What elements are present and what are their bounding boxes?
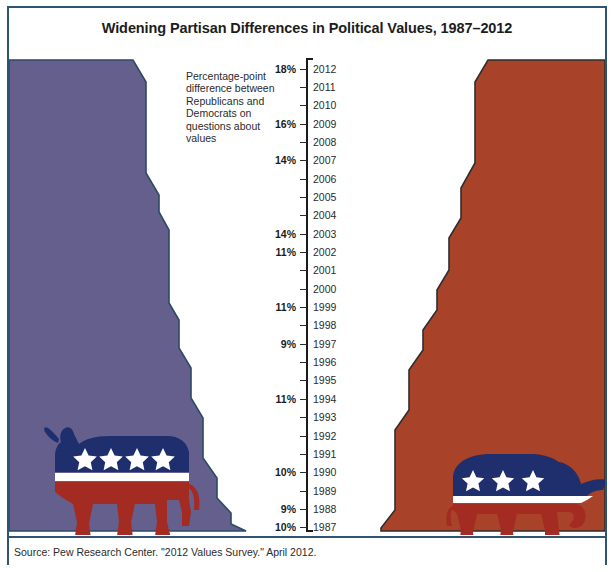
axis-percent-label: 16% [232, 119, 296, 129]
axis-tick [300, 69, 307, 70]
axis-tick [300, 472, 307, 473]
axis-year-label: 2003 [313, 229, 336, 239]
axis-tick [300, 270, 307, 271]
axis-year-label: 1997 [313, 339, 336, 349]
axis-year-label: 2005 [313, 192, 336, 202]
axis-percent-label: 18% [232, 64, 296, 74]
axis-year-label: 1988 [313, 504, 336, 514]
axis-tick [300, 344, 307, 345]
axis-year-label: 1998 [313, 320, 336, 330]
axis-year-label: 2006 [313, 174, 336, 184]
axis-tick [300, 215, 307, 216]
axis-year-label: 1996 [313, 357, 336, 367]
axis-tick [300, 325, 307, 326]
axis-year-label: 2004 [313, 210, 336, 220]
axis-year-label: 2007 [313, 155, 336, 165]
axis-tick [300, 87, 307, 88]
axis-tick [300, 417, 307, 418]
axis-tick [300, 307, 307, 308]
axis-tick [300, 380, 307, 381]
axis-tick [300, 491, 307, 492]
axis-year-label: 1990 [313, 467, 336, 477]
axis-year-label: 2011 [313, 82, 336, 92]
axis-year-label: 2009 [313, 119, 336, 129]
axis-year-label: 1992 [313, 431, 336, 441]
axis-year-label: 2001 [313, 265, 336, 275]
axis-percent-label: 9% [232, 339, 296, 349]
axis-tick [300, 234, 307, 235]
axis-percent-label: 10% [232, 467, 296, 477]
axis-year-label: 1993 [313, 412, 336, 422]
axis-year-label: 2010 [313, 100, 336, 110]
source-note: Source: Pew Research Center. "2012 Value… [14, 546, 316, 558]
axis-percent-label: 9% [232, 504, 296, 514]
axis-year-label: 2002 [313, 247, 336, 257]
axis-tick [300, 509, 307, 510]
chart-page: Widening Partisan Differences in Politic… [0, 0, 614, 572]
axis-percent-label: 11% [232, 394, 296, 404]
axis-cap-bottom [306, 530, 313, 532]
axis-year-label: 1999 [313, 302, 336, 312]
axis-percent-label: 14% [232, 229, 296, 239]
axis-percent-label: 11% [232, 302, 296, 312]
axis-tick [300, 142, 307, 143]
axis-tick [300, 105, 307, 106]
axis-tick [300, 197, 307, 198]
axis-year-label: 1991 [313, 449, 336, 459]
axis-percent-label: 10% [232, 522, 296, 532]
axis-tick [300, 124, 307, 125]
axis-tick [300, 454, 307, 455]
chart-annotation: Percentage-point difference between Repu… [186, 70, 290, 144]
axis-year-label: 2012 [313, 64, 336, 74]
axis-tick [300, 160, 307, 161]
axis-year-label: 1987 [313, 522, 336, 532]
axis-year-label: 1994 [313, 394, 336, 404]
axis-tick [300, 399, 307, 400]
axis-cap-top [306, 58, 313, 60]
page-title: Widening Partisan Differences in Politic… [0, 20, 614, 36]
axis-tick [300, 362, 307, 363]
center-axis [306, 58, 308, 532]
axis-percent-label: 11% [232, 247, 296, 257]
axis-tick [300, 289, 307, 290]
axis-percent-label: 14% [232, 155, 296, 165]
axis-tick [300, 436, 307, 437]
axis-tick [300, 527, 307, 528]
axis-year-label: 2000 [313, 284, 336, 294]
axis-year-label: 2008 [313, 137, 336, 147]
axis-tick [300, 179, 307, 180]
axis-year-label: 1995 [313, 375, 336, 385]
axis-year-label: 1989 [313, 486, 336, 496]
axis-tick [300, 252, 307, 253]
